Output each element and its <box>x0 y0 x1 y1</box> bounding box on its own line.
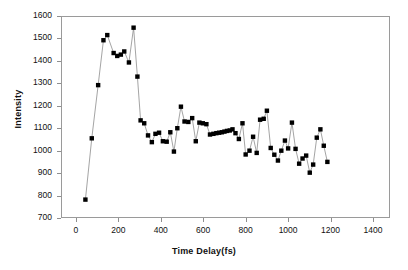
x-tick-label: 800 <box>226 225 266 235</box>
data-series-layer <box>61 16 390 218</box>
data-point <box>262 117 266 121</box>
data-point <box>237 137 241 141</box>
y-tick-mark <box>57 218 61 219</box>
y-tick-mark <box>57 151 61 152</box>
data-point <box>127 60 131 64</box>
y-tick-mark <box>57 196 61 197</box>
data-point <box>325 160 329 164</box>
data-point <box>290 120 294 124</box>
x-tick-mark <box>373 218 374 222</box>
y-tick-mark <box>57 16 61 17</box>
y-tick-label: 700 <box>18 212 52 222</box>
data-point <box>322 144 326 148</box>
data-point <box>286 146 290 150</box>
y-tick-mark <box>57 83 61 84</box>
x-tick-mark <box>203 218 204 222</box>
x-axis-label: Time Delay(fs) <box>0 246 408 256</box>
y-tick-mark <box>57 173 61 174</box>
data-point <box>96 83 100 87</box>
data-point <box>168 130 172 134</box>
x-tick-label: 600 <box>183 225 223 235</box>
x-tick-mark <box>118 218 119 222</box>
series-markers <box>83 25 329 201</box>
data-point <box>233 131 237 135</box>
data-point <box>135 74 139 78</box>
data-point <box>172 149 176 153</box>
data-point <box>179 104 183 108</box>
x-tick-mark <box>76 218 77 222</box>
y-axis-label: Intensity <box>13 90 23 129</box>
data-point <box>240 121 244 125</box>
data-point <box>265 109 269 113</box>
data-point <box>182 119 186 123</box>
data-point <box>230 127 234 131</box>
y-tick-mark <box>57 106 61 107</box>
data-point <box>190 116 194 120</box>
data-point <box>272 153 276 157</box>
x-tick-label: 200 <box>98 225 138 235</box>
data-point <box>255 151 259 155</box>
x-tick-mark <box>246 218 247 222</box>
data-point <box>269 146 273 150</box>
data-point <box>293 147 297 151</box>
x-tick-label: 1200 <box>311 225 351 235</box>
data-point <box>311 162 315 166</box>
data-point <box>276 158 280 162</box>
x-tick-mark <box>288 218 289 222</box>
data-point <box>308 170 312 174</box>
data-point <box>304 153 308 157</box>
data-point <box>251 135 255 139</box>
data-point <box>105 33 109 37</box>
data-point <box>165 139 169 143</box>
data-point <box>175 126 179 130</box>
data-point <box>101 38 105 42</box>
y-axis-label-wrapper: Intensity <box>7 49 25 169</box>
data-point <box>318 127 322 131</box>
data-point <box>142 121 146 125</box>
x-tick-label: 1000 <box>268 225 308 235</box>
x-tick-label: 0 <box>56 225 96 235</box>
y-tick-label: 800 <box>18 190 52 200</box>
data-point <box>131 25 135 29</box>
x-tick-label: 400 <box>141 225 181 235</box>
data-point <box>204 122 208 126</box>
data-point <box>150 140 154 144</box>
data-point <box>315 135 319 139</box>
data-point <box>279 148 283 152</box>
x-tick-mark <box>331 218 332 222</box>
y-tick-mark <box>57 128 61 129</box>
data-point <box>194 139 198 143</box>
x-tick-label: 1400 <box>353 225 393 235</box>
data-point <box>243 152 247 156</box>
y-tick-label: 1600 <box>18 10 52 20</box>
chart-figure: 7008009001000110012001300140015001600 02… <box>0 0 408 270</box>
data-point <box>90 136 94 140</box>
data-point <box>157 131 161 135</box>
data-point <box>122 49 126 53</box>
y-tick-label: 1500 <box>18 32 52 42</box>
y-tick-mark <box>57 38 61 39</box>
data-point <box>83 197 87 201</box>
x-tick-mark <box>161 218 162 222</box>
data-point <box>297 161 301 165</box>
data-point <box>161 139 165 143</box>
y-tick-mark <box>57 61 61 62</box>
data-point <box>247 148 251 152</box>
data-point <box>283 138 287 142</box>
data-point <box>186 120 190 124</box>
data-point <box>146 133 150 137</box>
